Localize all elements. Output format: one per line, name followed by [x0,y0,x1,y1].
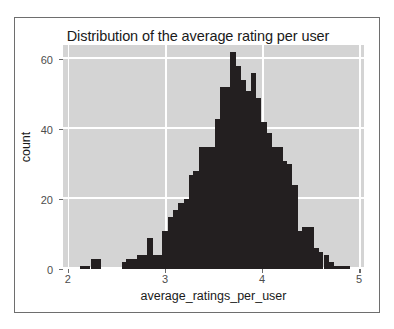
histogram-bar [333,266,339,270]
x-tick-mark [262,269,263,273]
plot-panel [63,45,364,269]
y-tick-mark [59,129,63,130]
x-tick-label: 5 [356,273,362,285]
histogram-bar [209,147,215,270]
histogram-bar [344,266,350,270]
y-tick-label: 60 [41,54,53,66]
y-axis-title: count [19,107,33,187]
histogram-bar [224,87,230,269]
x-tick-label: 4 [259,273,265,285]
histogram-bar [95,259,101,270]
figure-frame: Distribution of the average rating per u… [14,17,380,313]
y-tick-label: 20 [41,194,53,206]
histogram-bar [318,252,324,270]
histogram-bars [63,45,364,269]
histogram-bar [147,238,153,270]
histogram-bar [162,231,168,270]
y-tick-label: 40 [41,124,53,136]
histogram-bar [287,164,293,269]
x-tick-mark [165,269,166,273]
y-tick-label: 0 [47,264,53,276]
histogram-bar [178,203,184,270]
histogram-bar [193,171,199,269]
y-tick-mark [59,199,63,200]
x-tick-label: 2 [65,273,71,285]
histogram-bar [85,266,91,270]
histogram-bar [271,147,277,270]
chart-title: Distribution of the average rating per u… [15,28,381,44]
x-axis-tick-labels: 2345 [63,273,364,289]
x-tick-mark [359,269,360,273]
x-tick-mark [68,269,69,273]
x-axis-title: average_ratings_per_user [63,289,364,303]
x-tick-label: 3 [162,273,168,285]
histogram-bar [256,98,262,270]
y-tick-mark [59,59,63,60]
y-tick-mark [59,269,63,270]
